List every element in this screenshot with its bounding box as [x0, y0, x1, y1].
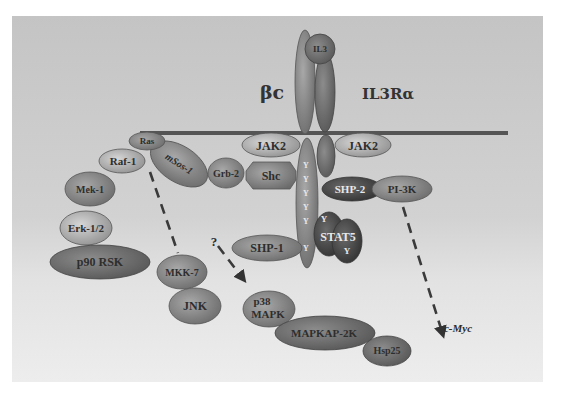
shc-label: Shc [262, 169, 281, 183]
unknown-pathway-question-mark: ? [211, 234, 218, 249]
jak2-right-label: JAK2 [348, 139, 378, 153]
shp1-label: SHP-1 [250, 241, 283, 255]
p90rsk-label: p90 RSK [77, 255, 124, 269]
p38-label-line1: p38 [253, 295, 271, 307]
pi3k-label: PI-3K [388, 183, 417, 195]
grb2-label: Grb-2 [213, 168, 239, 179]
stat5-label: STAT5 [320, 230, 356, 244]
raf1-label: Raf-1 [110, 155, 136, 167]
il3-signaling-diagram: IL3 βc IL3Rα Y Y Y Y Y Y JAK2 JAK2 Shc G… [0, 0, 563, 393]
il3-label: IL3 [313, 44, 328, 54]
jak2-left-label: JAK2 [256, 139, 286, 153]
il3ra-label: IL3Rα [362, 85, 414, 103]
pY-site: Y [303, 203, 309, 212]
mkk7-label: MKK-7 [165, 267, 198, 278]
mapkap2k-label: MAPKAP-2K [291, 327, 357, 339]
c-myc-label: c-Myc [444, 322, 472, 334]
pY-site: Y [303, 161, 309, 170]
pY-site: Y [303, 217, 309, 226]
il3ra-receptor-intracellular [317, 135, 335, 177]
pY-site: Y [303, 189, 309, 198]
beta-c-label: βc [260, 81, 284, 103]
ras-label: Ras [140, 136, 155, 146]
shp2-label: SHP-2 [335, 183, 366, 195]
jnk-label: JNK [183, 299, 208, 313]
pY-site: Y [303, 244, 309, 253]
stat5-y-bottom: Y [344, 246, 351, 256]
pY-site: Y [303, 175, 309, 184]
mek1-label: Mek-1 [76, 184, 104, 195]
p38-label-line2: MAPK [251, 308, 285, 320]
hsp25-label: Hsp25 [373, 345, 400, 356]
erk12-label: Erk-1/2 [68, 222, 105, 234]
stat5-y-top: Y [321, 214, 328, 224]
